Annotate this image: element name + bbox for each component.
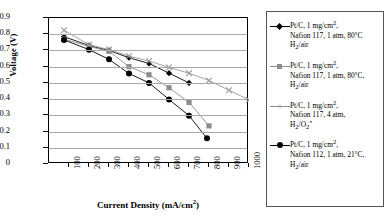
- x-tick-mark: [68, 163, 69, 167]
- legend-x-icon: ×: [276, 103, 283, 110]
- legend-item-1[interactable]: Pt/C, 1 mg/cm2,Nafion 117, 1 atm, 80°C,H…: [270, 58, 380, 92]
- chart-area: Voltage (V) 0.90.80.70.60.50.40.30.20.10…: [0, 0, 262, 220]
- data-point-circle: [204, 135, 210, 141]
- y-tick-label: 0.1: [0, 142, 10, 150]
- plot-frame: [48, 17, 248, 163]
- x-tick-label: 100: [72, 156, 82, 169]
- legend-item-0[interactable]: Pt/C, 1 mg/cm2,Nafion 117, 1 atm, 80°CH2…: [270, 18, 380, 52]
- series-0: [61, 34, 192, 86]
- series-layer: [49, 18, 249, 164]
- legend-marker-circle-icon: [270, 141, 290, 150]
- x-tick-label: 300: [112, 156, 122, 169]
- gridline: [49, 34, 247, 35]
- x-axis-title-text: Current Density (mA/cm: [97, 200, 193, 210]
- x-tick-label: 600: [172, 156, 182, 169]
- chart-screenshot: Voltage (V) 0.90.80.70.60.50.40.30.20.10…: [0, 0, 390, 220]
- legend-line2: Nafion 117, 1 atm, 80°C,: [290, 71, 364, 80]
- x-tick-label: 500: [152, 156, 162, 169]
- gridline: [49, 83, 247, 84]
- x-tick-label: 700: [192, 156, 202, 169]
- legend-diamond-icon: [276, 23, 283, 30]
- legend-circle-icon: [277, 142, 283, 148]
- y-tick-label: 0.2: [0, 126, 10, 134]
- x-tick-mark: [228, 163, 229, 167]
- y-tick-label: 0: [0, 158, 10, 166]
- x-tick-mark: [188, 163, 189, 167]
- gridline: [49, 148, 247, 149]
- legend-line2: Nafion 117, 1 atm, 80°C: [290, 31, 362, 40]
- data-point-square: [146, 72, 151, 77]
- y-tick-label: 0.7: [0, 44, 10, 52]
- gridline: [49, 99, 247, 100]
- legend-line1: Pt/C, 1 mg/cm2,: [290, 137, 364, 150]
- legend-superscript: 2: [333, 138, 336, 145]
- data-point-square: [186, 100, 191, 105]
- gridline: [49, 115, 247, 116]
- gridline: [49, 132, 247, 133]
- x-tick-mark: [148, 163, 149, 167]
- y-tick-label: 0.4: [0, 93, 10, 101]
- legend-line1: Pt/C, 1 mg/cm2,: [290, 18, 362, 31]
- data-point-square: [166, 85, 171, 90]
- legend-subscript: 2: [295, 123, 298, 130]
- legend-square-icon: [277, 64, 282, 69]
- legend-superscript: 2: [333, 59, 336, 66]
- legend-label-0: Pt/C, 1 mg/cm2,Nafion 117, 1 atm, 80°CH2…: [290, 18, 362, 52]
- legend-box: Pt/C, 1 mg/cm2,Nafion 117, 1 atm, 80°CH2…: [266, 11, 384, 207]
- data-point-circle: [61, 37, 67, 43]
- x-tick-mark: [88, 163, 89, 167]
- legend-subscript-2: 2: [306, 123, 309, 130]
- legend-marker-x-icon: ×: [270, 102, 290, 111]
- legend-label-3: Pt/C, 1 mg/cm2,Nafion 112, 1 atm, 21°C,H…: [290, 137, 364, 171]
- y-tick-mark: [43, 163, 48, 164]
- legend-marker-square-icon: [270, 62, 290, 71]
- data-point-x: [61, 27, 67, 33]
- x-tick-label: 400: [132, 156, 142, 169]
- x-tick-label: 800: [212, 156, 222, 169]
- y-tick-label: 0.8: [0, 28, 10, 36]
- legend-line3: H2/air: [290, 40, 362, 52]
- x-tick-mark: [248, 163, 249, 167]
- x-tick-mark: [108, 163, 109, 167]
- data-point-x: [226, 87, 232, 93]
- x-tick-mark: [208, 163, 209, 167]
- legend-line3: H2/air: [290, 160, 364, 172]
- legend-item-2[interactable]: ×Pt/C, 1 mg/cm2,Nafion 117, 4 atm,H2/O2": [270, 98, 380, 132]
- gridline: [49, 50, 247, 51]
- series-line: [64, 37, 189, 83]
- data-point-diamond: [166, 70, 172, 76]
- series-line: [64, 40, 207, 138]
- y-tick-label: 0.3: [0, 109, 10, 117]
- legend-marker-diamond-icon: [270, 22, 290, 31]
- y-tick-label: 0.5: [0, 77, 10, 85]
- x-tick-label: 200: [92, 156, 102, 169]
- data-point-x: [186, 70, 192, 76]
- legend-line3: H2/air: [290, 80, 364, 92]
- gridline: [49, 67, 247, 68]
- legend-subscript: 2: [295, 163, 298, 170]
- legend-superscript: 2: [333, 19, 336, 26]
- legend-line1: Pt/C, 1 mg/cm2,: [290, 98, 345, 111]
- legend-superscript: 2: [333, 99, 336, 106]
- y-tick-label: 0.9: [0, 12, 10, 20]
- x-axis-title-tail: ): [196, 200, 199, 210]
- x-axis-title: Current Density (mA/cm2): [48, 198, 248, 210]
- legend-line1: Pt/C, 1 mg/cm2,: [290, 58, 364, 71]
- y-tick-label: 0.6: [0, 61, 10, 69]
- legend-label-1: Pt/C, 1 mg/cm2,Nafion 117, 1 atm, 80°C,H…: [290, 58, 364, 92]
- legend-subscript: 2: [295, 83, 298, 90]
- legend-subscript: 2: [295, 44, 298, 51]
- series-3: [61, 37, 210, 141]
- legend-line2: Nafion 117, 4 atm,: [290, 110, 345, 119]
- legend-line3: H2/O2": [290, 120, 345, 132]
- data-point-square: [206, 123, 211, 128]
- legend-item-3[interactable]: Pt/C, 1 mg/cm2,Nafion 112, 1 atm, 21°C,H…: [270, 137, 380, 171]
- x-tick-label: 900: [232, 156, 242, 169]
- series-2: [61, 27, 249, 103]
- data-point-circle: [106, 56, 112, 62]
- x-tick-label: 1000: [252, 152, 262, 169]
- x-tick-mark: [128, 163, 129, 167]
- legend-line2: Nafion 112, 1 atm, 21°C,: [290, 150, 364, 159]
- data-point-circle: [126, 70, 132, 76]
- x-tick-mark: [168, 163, 169, 167]
